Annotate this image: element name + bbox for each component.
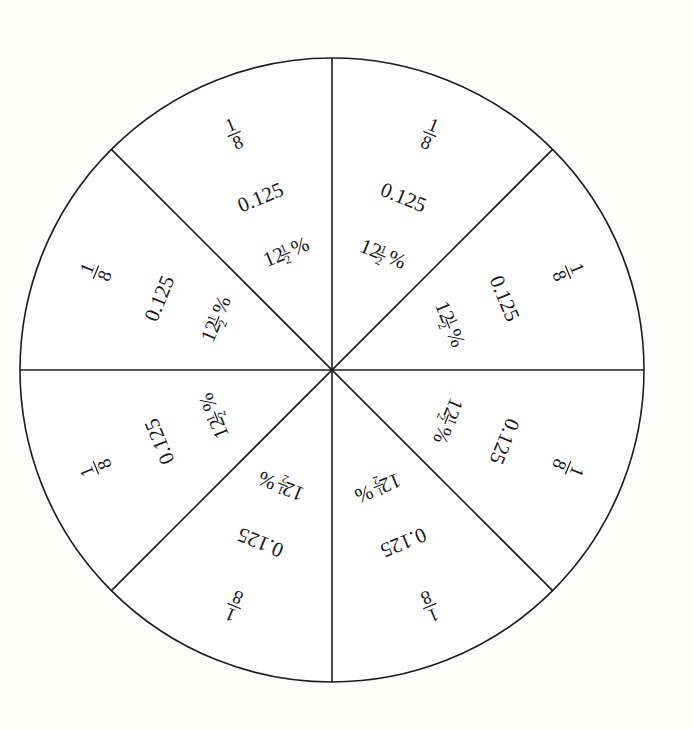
fraction-circle-diagram: 180.1251212%180.1251212%180.1251212%180.… <box>0 0 693 729</box>
worksheet-canvas: 180.1251212%180.1251212%180.1251212%180.… <box>0 0 693 729</box>
sector-divider-lines <box>20 58 644 682</box>
